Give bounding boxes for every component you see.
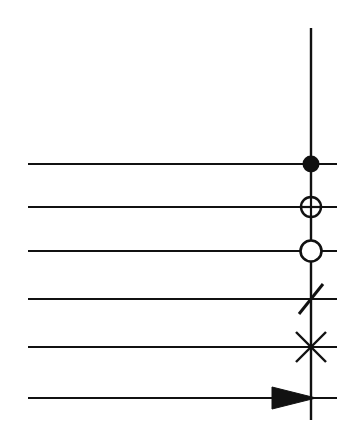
line-marker-diagram: [0, 0, 362, 446]
filled-circle-icon: [304, 157, 319, 172]
open-circle-icon: [301, 241, 322, 262]
diagram-canvas: [0, 0, 362, 446]
canvas-background: [0, 0, 362, 446]
